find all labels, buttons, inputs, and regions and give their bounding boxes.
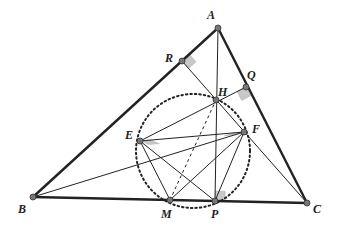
point-f [241, 129, 247, 135]
side-ca [218, 28, 307, 203]
point-m [167, 197, 173, 203]
segment-fm [170, 132, 244, 200]
label-p: P [211, 207, 219, 221]
point-a [215, 25, 221, 31]
label-q: Q [247, 68, 256, 82]
point-p [212, 198, 218, 204]
geometry-diagram: ABCRQHEFMP [0, 0, 339, 227]
dashed-mh [170, 100, 216, 200]
label-b: B [17, 202, 26, 216]
label-a: A [206, 8, 215, 22]
segment-em [140, 141, 170, 200]
point-c [304, 200, 310, 206]
point-q [243, 84, 249, 90]
altitude-ap [215, 28, 218, 201]
label-f: F [251, 122, 260, 136]
label-r: R [164, 51, 173, 65]
point-labels: ABCRQHEFMP [17, 8, 322, 221]
point-r [179, 58, 185, 64]
label-e: E [124, 128, 133, 142]
point-e [137, 138, 143, 144]
side-ab [33, 28, 218, 197]
segment-fp [215, 132, 244, 201]
label-h: H [217, 85, 228, 99]
label-c: C [313, 202, 322, 216]
label-m: M [160, 207, 172, 221]
segment-ep [140, 141, 215, 201]
point-b [30, 194, 36, 200]
